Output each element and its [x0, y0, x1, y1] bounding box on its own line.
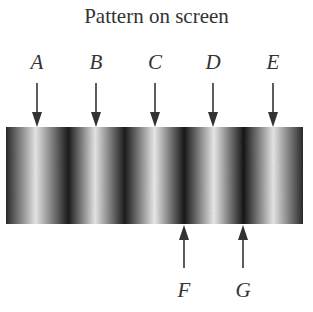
arrow-g-icon — [238, 225, 248, 268]
arrow-f-icon — [179, 225, 189, 268]
arrow-c-icon — [150, 83, 160, 127]
arrow-d-icon — [208, 83, 218, 127]
arrow-b-icon — [91, 83, 101, 127]
arrow-e-icon — [268, 83, 278, 127]
arrows-layer — [0, 0, 313, 312]
label-g: G — [228, 278, 258, 303]
arrow-a-icon — [32, 83, 42, 127]
label-f: F — [169, 278, 199, 303]
